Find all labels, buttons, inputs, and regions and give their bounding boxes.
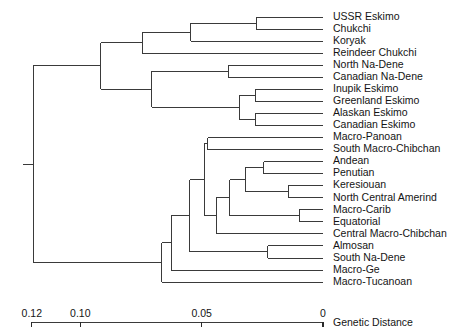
leaf-label: Penutian xyxy=(333,166,375,178)
leaf-label: Chukchi xyxy=(333,22,371,34)
leaf-label: Macro-Panoan xyxy=(333,130,402,142)
leaf-label: North Central Amerind xyxy=(333,191,437,203)
leaf-label: Macro-Carib xyxy=(333,203,391,215)
leaf-label: Greenland Eskimo xyxy=(333,94,420,106)
leaf-label: Macro-Ge xyxy=(333,263,380,275)
leaf-label: Alaskan Eskimo xyxy=(333,106,408,118)
x-axis-tick-label: 0 xyxy=(320,307,326,319)
leaf-label: Almosan xyxy=(333,239,374,251)
leaf-label: Reindeer Chukchi xyxy=(333,46,416,58)
dendrogram-svg: USSR EskimoChukchiKoryakReindeer Chukchi… xyxy=(0,0,457,331)
leaf-label: Canadian Eskimo xyxy=(333,118,415,130)
leaf-label: North Na-Dene xyxy=(333,58,404,70)
leaf-label: South Macro-Chibchan xyxy=(333,142,441,154)
leaf-label: Canadian Na-Dene xyxy=(333,70,423,82)
axis-layer: 0.120.100.050Genetic Distance xyxy=(22,307,414,328)
leaf-label: Keresiouan xyxy=(333,178,386,190)
dendrogram-figure: USSR EskimoChukchiKoryakReindeer Chukchi… xyxy=(0,0,457,331)
leaf-label-layer: USSR EskimoChukchiKoryakReindeer Chukchi… xyxy=(333,10,447,287)
x-axis-tick-label: 0.10 xyxy=(70,307,91,319)
leaf-label: Koryak xyxy=(333,34,366,46)
leaf-label: Equatorial xyxy=(333,215,380,227)
leaf-label: Central Macro-Chibchan xyxy=(333,227,447,239)
leaf-label: Macro-Tucanoan xyxy=(333,275,412,287)
x-axis-title: Genetic Distance xyxy=(333,316,413,328)
leaf-label: USSR Eskimo xyxy=(333,10,400,22)
leaf-label: Andean xyxy=(333,154,369,166)
leaf-label: South Na-Dene xyxy=(333,251,406,263)
branch-layer xyxy=(23,17,323,282)
x-axis-tick-label: 0.12 xyxy=(22,307,43,319)
leaf-label: Inupik Eskimo xyxy=(333,82,399,94)
x-axis-tick-label: 0.05 xyxy=(191,307,212,319)
